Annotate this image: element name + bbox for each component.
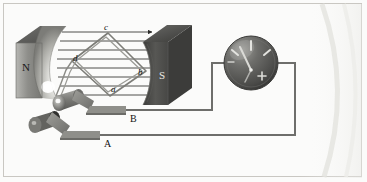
coil-label-d: d (73, 54, 78, 63)
label-north-pole: N (22, 62, 30, 73)
generator-diagram (0, 0, 367, 182)
south-pole-magnet (143, 25, 192, 105)
rotating-coil (56, 33, 146, 98)
figure-canvas: N S c d b a B A (0, 0, 367, 182)
label-south-pole: S (159, 70, 165, 81)
coil-label-a: a (111, 85, 116, 94)
terminal-label-a: A (104, 139, 111, 149)
coil-label-b: b (138, 68, 143, 77)
galvanometer[interactable] (224, 36, 278, 90)
slip-ring-assembly-lower (29, 111, 101, 140)
magnetic-field-lines (57, 32, 158, 95)
background-wash (300, 4, 362, 178)
coil-label-c: c (104, 23, 108, 32)
terminal-label-b: B (130, 114, 137, 124)
